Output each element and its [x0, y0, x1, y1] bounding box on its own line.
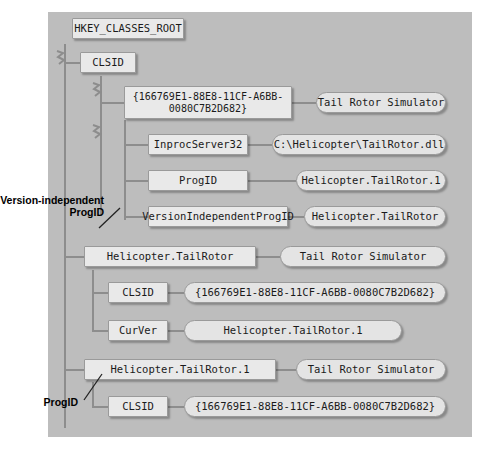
branch-root-to-helicopter-tailrotor: [64, 256, 84, 258]
node-helicopter-tailrotor-1-default-value[interactable]: Tail Rotor Simulator: [296, 359, 446, 380]
branch-ht-to-curver: [92, 330, 108, 332]
node-curver-value[interactable]: Helicopter.TailRotor.1: [184, 320, 402, 341]
node-helicopter-tailrotor-key[interactable]: Helicopter.TailRotor: [84, 246, 256, 267]
break-mark-icon: [92, 122, 108, 140]
diagram-root: HKEY_CLASSES_ROOT CLSID {166769E1-88E8-1…: [0, 0, 498, 460]
node-version-independent-progid-key[interactable]: VersionIndependentProgID: [148, 206, 288, 227]
branch-ht1-to-default-value: [276, 369, 296, 371]
node-progid-value[interactable]: Helicopter.TailRotor.1: [296, 170, 446, 191]
branch-ht-to-default-value: [256, 256, 280, 258]
node-curver-key[interactable]: CurVer: [108, 320, 168, 341]
annotation-version-independent-progid: Version-independent ProgID: [0, 194, 104, 218]
node-ht-clsid-key[interactable]: CLSID: [108, 282, 168, 303]
node-hkey-classes-root[interactable]: HKEY_CLASSES_ROOT: [72, 18, 184, 39]
branch-curver-to-value: [168, 330, 184, 332]
branch-inprocserver32-to-value: [248, 144, 272, 146]
annotation-progid: ProgID: [0, 396, 78, 408]
branch-guid-to-progid: [124, 180, 148, 182]
branch-ht1-clsid-to-value: [168, 406, 184, 408]
node-inprocserver32-key[interactable]: InprocServer32: [148, 134, 248, 155]
node-helicopter-tailrotor-1-key[interactable]: Helicopter.TailRotor.1: [84, 359, 276, 380]
leader-line-version-independent-progid: [98, 206, 132, 230]
node-guid-key[interactable]: {166769E1-88E8-11CF-A6BB- 0080C7B2D682}: [124, 86, 292, 119]
node-ht1-clsid-value[interactable]: {166769E1-88E8-11CF-A6BB-0080C7B2D682}: [184, 396, 446, 417]
node-clsid-key[interactable]: CLSID: [80, 52, 136, 73]
node-helicopter-tailrotor-default-value[interactable]: Tail Rotor Simulator: [280, 246, 446, 267]
branch-ht1-to-clsid: [92, 406, 108, 408]
branch-guid-to-inprocserver32: [124, 144, 148, 146]
trunk-line-helicopter-tailrotor: [92, 270, 94, 332]
trunk-line-guid: [124, 120, 126, 220]
node-inprocserver32-value[interactable]: C:\Helicopter\TailRotor.dll: [272, 134, 446, 155]
branch-ht-clsid-to-value: [168, 292, 184, 294]
break-mark-icon: [56, 48, 72, 66]
node-ht-clsid-value[interactable]: {166769E1-88E8-11CF-A6BB-0080C7B2D682}: [184, 282, 446, 303]
leader-line-progid: [82, 372, 112, 402]
node-guid-default-value[interactable]: Tail Rotor Simulator: [316, 92, 446, 113]
branch-guid-to-default-value: [292, 102, 316, 104]
branch-clsid-to-guid: [100, 102, 124, 104]
branch-root-to-helicopter-tailrotor-1: [64, 369, 84, 371]
branch-progid-to-value: [248, 180, 296, 182]
node-progid-key[interactable]: ProgID: [148, 170, 248, 191]
node-ht1-clsid-key[interactable]: CLSID: [108, 396, 168, 417]
node-version-independent-progid-value[interactable]: Helicopter.TailRotor: [304, 206, 446, 227]
branch-ht-to-clsid: [92, 292, 108, 294]
break-mark-icon: [92, 80, 108, 98]
